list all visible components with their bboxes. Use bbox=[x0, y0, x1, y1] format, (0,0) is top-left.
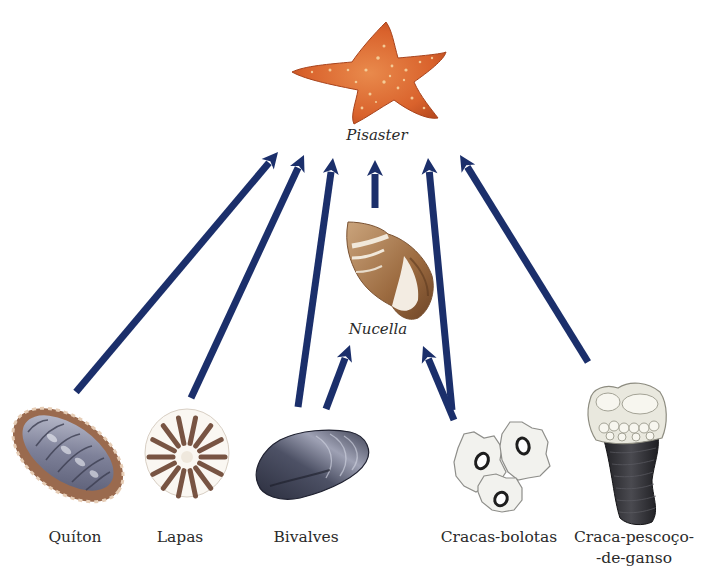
pisaster-label: Pisaster bbox=[345, 126, 408, 144]
arrow-craca-pescoco-to-pisaster bbox=[460, 155, 588, 362]
acorn-barnacles-icon bbox=[454, 422, 550, 512]
arrow-shaft bbox=[298, 172, 331, 407]
cracas-bolotas-label: Cracas-bolotas bbox=[441, 528, 558, 546]
gooseneck-barnacle-icon bbox=[588, 383, 666, 525]
craca-pescoco-label-line1: Craca-pescoço- bbox=[574, 528, 694, 546]
limpet-icon bbox=[145, 409, 229, 497]
craca-pescoco-de-ganso-node: Craca-pescoço- -de-ganso bbox=[574, 383, 694, 567]
pisaster-node: Pisaster bbox=[292, 22, 446, 144]
arrow-shaft bbox=[467, 167, 588, 362]
whelk-shell-icon bbox=[347, 222, 434, 319]
arrow-shaft bbox=[191, 168, 298, 398]
nucella-node: Nucella bbox=[347, 222, 434, 338]
lapas-label: Lapas bbox=[157, 528, 204, 546]
quiton-label: Quíton bbox=[48, 528, 101, 546]
craca-pescoco-label-line2: -de-ganso bbox=[596, 549, 672, 567]
arrow-bivalves-to-pisaster bbox=[298, 158, 339, 407]
chiton-icon bbox=[0, 389, 140, 521]
food-web-diagram: Pisaster Nucella bbox=[0, 0, 721, 584]
nucella-label: Nucella bbox=[348, 320, 408, 338]
arrow-head-icon bbox=[367, 160, 383, 176]
quiton-node: Quíton bbox=[0, 389, 140, 546]
arrow-shaft bbox=[76, 163, 269, 392]
bivalves-node: Bivalves bbox=[256, 430, 368, 546]
arrow-shaft bbox=[326, 358, 345, 409]
lapas-node: Lapas bbox=[145, 409, 229, 546]
arrows-layer bbox=[76, 152, 588, 420]
cracas-bolotas-node: Cracas-bolotas bbox=[441, 422, 558, 546]
bivalves-label: Bivalves bbox=[273, 528, 338, 546]
mussel-icon bbox=[256, 430, 368, 499]
arrow-nucella-to-pisaster bbox=[367, 160, 383, 208]
arrow-bivalves-to-nucella bbox=[326, 345, 352, 409]
sea-star-icon bbox=[292, 22, 446, 124]
